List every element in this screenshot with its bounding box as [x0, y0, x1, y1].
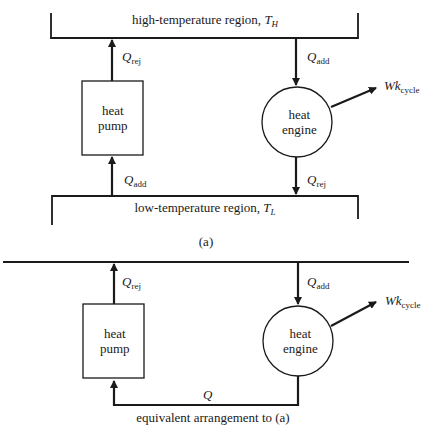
pump-qrej-label-b: Qrej [122, 275, 141, 291]
q-symbol: Q [122, 49, 131, 64]
wk-subscript: cycle [401, 85, 420, 95]
heat-pump-label-a: heat pump [98, 103, 128, 133]
work-output-label-b: Wkcycle [385, 294, 421, 310]
caption-b: equivalent arrangement to (a) [136, 411, 289, 424]
work-output-label-a: Wkcycle [384, 79, 420, 95]
heat-engine-label-a: heat engine [282, 107, 317, 137]
q-symbol: Q [122, 274, 131, 289]
high-temp-region-label: high-temperature region, TH [132, 13, 278, 29]
temp-subscript: L [271, 207, 276, 217]
pump-qrej-label-a: Qrej [122, 50, 141, 66]
pump-qadd-label-a: Qadd [124, 173, 146, 189]
q-symbol: Q [307, 172, 316, 187]
heat-engine-line1: heat [282, 107, 317, 122]
heat-engine-line1: heat [283, 326, 318, 341]
heat-engine-line2: engine [282, 122, 317, 137]
heat-pump-line2: pump [98, 118, 128, 133]
caption-a: (a) [199, 235, 213, 248]
heat-pump-line1: heat [98, 103, 128, 118]
loop-q-label-b: Q [203, 388, 212, 401]
q-symbol: Q [307, 49, 316, 64]
wk-symbol: Wk [384, 78, 401, 93]
q-symbol: Q [307, 274, 316, 289]
temp-subscript: H [272, 19, 279, 29]
heat-pump-engine-diagram: high-temperature region, TH Qrej Qadd he… [0, 0, 436, 435]
diagram-lines [0, 0, 436, 435]
high-temp-region-text: high-temperature region, [132, 12, 264, 27]
q-subscript: add [316, 281, 329, 291]
heat-pump-line1: heat [100, 326, 130, 341]
engine-qadd-label-b: Qadd [307, 275, 329, 291]
wk-symbol: Wk [385, 293, 402, 308]
low-temp-region-text: low-temperature region, [134, 200, 263, 215]
q-subscript: rej [316, 179, 326, 189]
heat-pump-label-b: heat pump [100, 326, 130, 356]
q-subscript: rej [131, 56, 141, 66]
arrow-work-b [331, 302, 376, 326]
engine-qadd-label-a: Qadd [307, 50, 329, 66]
heat-engine-label-b: heat engine [283, 326, 318, 356]
heat-pump-line2: pump [100, 341, 130, 356]
heat-engine-line2: engine [283, 341, 318, 356]
low-temp-region-label: low-temperature region, TL [134, 201, 275, 217]
q-subscript: rej [131, 281, 141, 291]
engine-qrej-label-a: Qrej [307, 173, 326, 189]
arrow-work-a [331, 88, 376, 107]
q-subscript: add [133, 179, 146, 189]
q-symbol: Q [203, 387, 212, 402]
q-subscript: add [316, 56, 329, 66]
q-symbol: Q [124, 172, 133, 187]
wk-subscript: cycle [402, 300, 421, 310]
temp-symbol: T [264, 12, 271, 27]
